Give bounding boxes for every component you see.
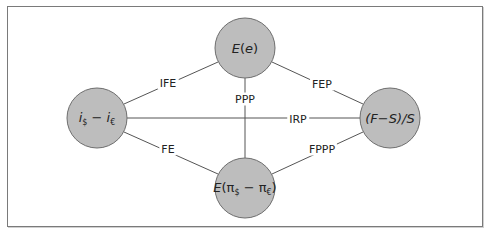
edge-label-ppp: PPP	[233, 93, 257, 106]
node-inflation-diff-label: E(π$ − π€)	[205, 180, 285, 197]
edge-label-ife: IFE	[158, 77, 179, 90]
label-part: )	[253, 41, 258, 56]
label-part: )	[272, 180, 277, 195]
edge-label-fppp: FPPP	[307, 143, 337, 156]
label-part: €	[110, 118, 115, 127]
label-part: −	[87, 110, 106, 125]
node-interest-diff-label: i$ − i€	[57, 110, 137, 127]
label-part: E	[232, 41, 240, 56]
edge-label-fe: FE	[159, 143, 176, 156]
label-part: E	[213, 180, 221, 195]
label-part: e	[245, 41, 253, 56]
label-part: −	[240, 180, 259, 195]
node-forward-premium-label: (F−S)/S	[350, 111, 430, 126]
edge-label-irp: IRP	[287, 113, 309, 126]
edge-label-fep: FEP	[310, 78, 334, 91]
node-expected-exchange-label: E(e)	[205, 41, 285, 56]
label-part: π	[259, 180, 267, 195]
